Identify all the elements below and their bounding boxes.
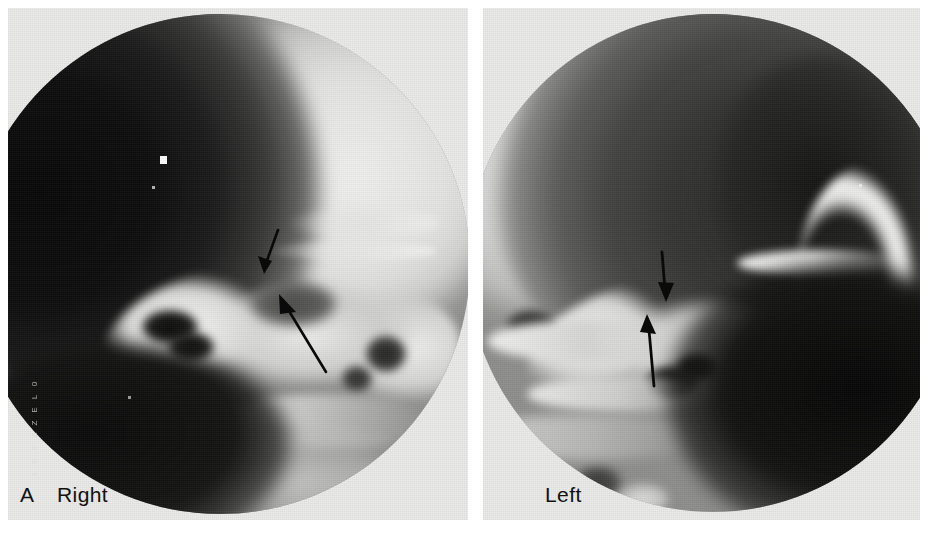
film-edge-mark: 1 — [31, 472, 39, 476]
occipital-margin-streak — [288, 210, 438, 236]
film-artifact-dot — [128, 396, 131, 399]
collimated-field-left — [483, 14, 920, 512]
film-edge-mark: Z — [31, 420, 39, 425]
film-artifact-dot — [859, 184, 862, 187]
collimated-field-right — [8, 14, 468, 514]
air-cell-lucency — [575, 466, 621, 500]
radiograph-figure: 0 L E Z Z E 0 1 — [0, 0, 935, 541]
annotation-arrow-right-upper — [248, 228, 288, 288]
figure-letter-label: A — [20, 483, 34, 507]
film-edge-mark: L — [31, 395, 39, 399]
annotation-arrow-left-lower — [632, 300, 672, 388]
panel-label-right: Right — [57, 483, 108, 507]
panel-left — [483, 8, 920, 520]
film-artifact-dot — [160, 156, 167, 164]
panel-label-left: Left — [545, 483, 582, 507]
film-edge-mark: 0 — [31, 382, 39, 386]
temporal-line-streak — [266, 242, 436, 260]
film-edge-mark: Z — [31, 433, 39, 438]
air-cell-lucency — [617, 484, 669, 512]
film-edge-mark: E — [31, 446, 39, 451]
film-artifact-dot — [152, 186, 155, 189]
panel-right: 0 L E Z Z E 0 1 — [8, 8, 468, 520]
film-edge-mark: 0 — [31, 459, 39, 463]
air-cell-lucency — [342, 366, 372, 392]
air-cell-lucency — [366, 336, 406, 372]
film-edge-mark: E — [31, 407, 39, 412]
annotation-arrow-right-lower — [266, 284, 336, 376]
film-edge-markings: 0 L E Z Z E 0 1 — [30, 380, 40, 478]
